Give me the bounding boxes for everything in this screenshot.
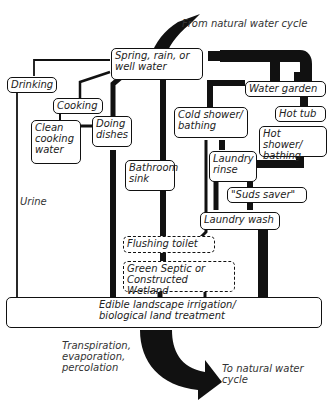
- source-node: Spring, rain, or well water: [111, 48, 203, 80]
- hot-tub-node: Hot tub: [275, 106, 326, 122]
- laundry-rinse-node: Laundry rinse: [209, 151, 257, 182]
- water-garden-node: Water garden: [245, 81, 326, 97]
- land-treatment-node: Edible landscape irrigation/ biological …: [6, 297, 322, 328]
- urine-label: Urine: [20, 196, 47, 207]
- outgoing-arrow: [140, 330, 222, 400]
- hot-shower-node: Hot shower/ bathing: [259, 126, 327, 157]
- drinking-node: Drinking: [7, 77, 57, 93]
- from-natural-cycle-label: From natural water cycle: [182, 18, 307, 29]
- bathroom-sink-node: Bathroom sink: [125, 160, 175, 191]
- cooking-node: Cooking: [53, 98, 103, 114]
- cold-shower-node: Cold shower/ bathing: [174, 107, 248, 138]
- flushing-toilet-node: Flushing toilet: [123, 236, 215, 253]
- suds-saver-node: "Suds saver": [227, 187, 307, 203]
- laundry-wash-node: Laundry wash: [200, 212, 280, 230]
- to-natural-cycle-label: To natural water cycle: [222, 363, 304, 385]
- clean-cooking-water-node: Clean cooking water: [31, 120, 81, 164]
- transpiration-label: Transpiration, evaporation, percolation: [62, 340, 131, 373]
- doing-dishes-node: Doing dishes: [92, 116, 132, 147]
- green-septic-node: Green Septic or Constructed Wetland: [123, 261, 235, 292]
